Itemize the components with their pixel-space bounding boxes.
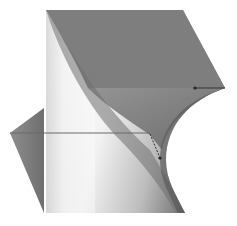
marker-point-lower (158, 156, 161, 159)
rendered-shape-scene (0, 0, 237, 226)
left-wedge (10, 108, 44, 213)
twisted-solid (0, 0, 237, 226)
